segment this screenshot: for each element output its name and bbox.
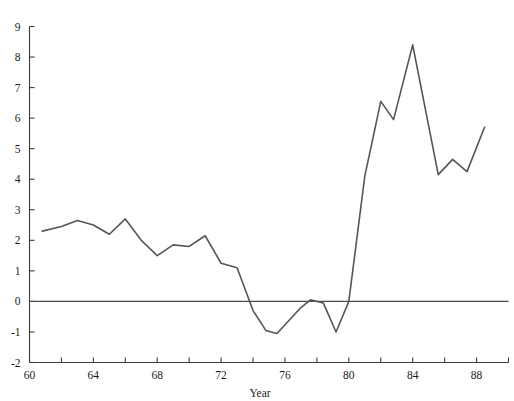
y-tick-label: -1 — [11, 326, 21, 338]
chart-canvas: -2-10123456789 6064687276808488 Year — [0, 0, 514, 401]
y-tick-label: 2 — [15, 234, 21, 246]
chart-background — [0, 0, 514, 401]
y-tick-label: 3 — [15, 204, 21, 216]
y-tick-label: 5 — [15, 143, 21, 155]
x-tick-label: 64 — [88, 369, 100, 381]
y-tick-label: 0 — [15, 295, 21, 307]
y-tick-label: 8 — [15, 51, 21, 63]
x-tick-label: 60 — [24, 369, 36, 381]
line-chart: -2-10123456789 6064687276808488 Year — [0, 0, 514, 401]
y-tick-label: 9 — [15, 21, 21, 33]
x-tick-label: 72 — [215, 369, 227, 381]
y-tick-label: 6 — [15, 112, 21, 124]
y-tick-label: 4 — [15, 173, 21, 185]
y-tick-label: 1 — [15, 265, 21, 277]
y-tick-label: -2 — [11, 357, 21, 369]
x-tick-label: 76 — [279, 369, 291, 381]
x-tick-label: 68 — [151, 369, 163, 381]
x-tick-label: 84 — [407, 369, 419, 381]
x-axis-title: Year — [249, 387, 270, 399]
y-tick-label: 7 — [15, 82, 21, 94]
x-tick-label: 80 — [343, 369, 355, 381]
x-tick-label: 88 — [471, 369, 483, 381]
